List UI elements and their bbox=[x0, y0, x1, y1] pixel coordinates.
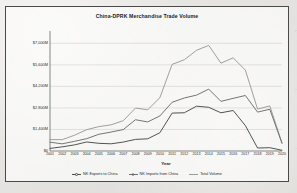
diamond-marker bbox=[72, 173, 81, 176]
x-axis-tick-label: 2018 bbox=[254, 153, 262, 157]
x-axis-tick-label: 2009 bbox=[144, 153, 152, 157]
legend-item[interactable]: NK Exports to China bbox=[72, 173, 117, 177]
x-axis-tick-label: 2008 bbox=[131, 153, 139, 157]
chart-legend: NK Exports to ChinaNK Imports from China… bbox=[6, 173, 288, 177]
series-line bbox=[50, 89, 282, 144]
legend-item[interactable]: NK Imports from China bbox=[129, 173, 179, 177]
legend-label: NK Imports from China bbox=[140, 173, 179, 177]
legend-label: Total Volume bbox=[200, 173, 222, 177]
x-axis-tick-label: 2015 bbox=[217, 153, 225, 157]
x-axis-tick-label: 2006 bbox=[107, 153, 115, 157]
plot-area bbox=[50, 31, 282, 151]
chart-title: China-DPRK Merchandise Trade Volume bbox=[6, 14, 288, 19]
legend-item[interactable]: Total Volume bbox=[189, 173, 222, 177]
x-axis-tick-label: 2020 bbox=[278, 153, 286, 157]
x-axis-tick-label: 2003 bbox=[70, 153, 78, 157]
chart-frame: China-DPRK Merchandise Trade Volume $0$1… bbox=[5, 6, 289, 182]
x-axis-tick-label: 2014 bbox=[205, 153, 213, 157]
scanned-page: China-DPRK Merchandise Trade Volume $0$1… bbox=[0, 0, 297, 193]
y-axis-tick-label: $1,400M bbox=[10, 128, 48, 132]
y-axis-labels: $0$1,400M$2,800M$4,200M$5,600M$7,000M bbox=[8, 31, 48, 151]
circle-marker bbox=[129, 173, 138, 176]
x-axis-tick-label: 2005 bbox=[95, 153, 103, 157]
legend-label: NK Exports to China bbox=[83, 173, 117, 177]
x-axis-tick-label: 2004 bbox=[83, 153, 91, 157]
x-axis-tick-label: 2016 bbox=[229, 153, 237, 157]
x-axis-tick-label: 2002 bbox=[58, 153, 66, 157]
y-axis-tick-label: $4,200M bbox=[10, 84, 48, 88]
x-axis-title: Year bbox=[50, 162, 282, 166]
x-axis-tick-label: 2010 bbox=[156, 153, 164, 157]
x-axis-tick-label: 2013 bbox=[193, 153, 201, 157]
line-marker bbox=[189, 173, 198, 176]
chart-plot-svg bbox=[50, 31, 282, 151]
x-axis-tick-label: 2001 bbox=[46, 153, 54, 157]
x-axis-tick-label: 2007 bbox=[119, 153, 127, 157]
y-axis-tick-label: $0 bbox=[10, 149, 48, 153]
y-axis-tick-label: $5,600M bbox=[10, 63, 48, 67]
x-axis-tick-label: 2012 bbox=[180, 153, 188, 157]
y-axis-tick-label: $2,800M bbox=[10, 106, 48, 110]
x-axis-tick-label: 2011 bbox=[168, 153, 176, 157]
series-line bbox=[50, 106, 282, 150]
x-axis-tick-label: 2019 bbox=[266, 153, 274, 157]
y-axis-tick-label: $7,000M bbox=[10, 41, 48, 45]
x-axis-tick-label: 2017 bbox=[241, 153, 249, 157]
